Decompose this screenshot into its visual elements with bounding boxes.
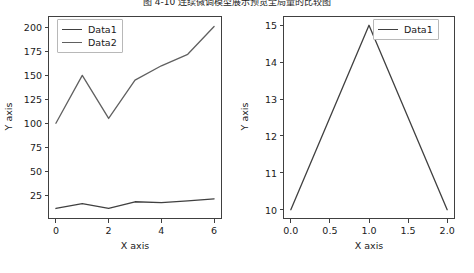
x-tick-mark <box>55 219 56 223</box>
figure-canvas: 图 4-10 连续微调模型展示预览全局量的比较图 255075100125150… <box>0 0 474 273</box>
x-tick-label: 2 <box>106 225 112 236</box>
left-chart-legend[interactable]: Data1 Data2 <box>57 19 123 53</box>
y-tick-mark <box>45 99 49 100</box>
x-tick-mark <box>161 219 162 223</box>
left-yaxis-label: Y axis <box>3 87 14 147</box>
series-line-Data1 <box>291 25 447 210</box>
x-tick-mark <box>408 219 409 223</box>
y-tick-mark <box>45 75 49 76</box>
right-chart-axes <box>283 16 455 219</box>
right-xaxis-label: X axis <box>283 240 455 251</box>
legend-label: Data1 <box>88 24 117 35</box>
y-tick-label: 14 <box>243 57 277 68</box>
x-tick-label: 2.0 <box>440 225 455 236</box>
legend-item[interactable]: Data1 <box>378 23 433 36</box>
y-tick-label: 50 <box>8 166 42 177</box>
right-chart-legend[interactable]: Data1 <box>373 19 439 40</box>
x-tick-label: 6 <box>211 225 217 236</box>
legend-item[interactable]: Data1 <box>62 23 117 36</box>
x-tick-mark <box>329 219 330 223</box>
y-tick-mark <box>45 195 49 196</box>
x-tick-mark <box>214 219 215 223</box>
y-tick-label: 150 <box>8 70 42 81</box>
y-tick-mark <box>280 135 284 136</box>
legend-label: Data2 <box>88 37 117 48</box>
series-line-Data1 <box>56 199 214 209</box>
y-tick-mark <box>280 99 284 100</box>
figure-title: 图 4-10 连续微调模型展示预览全局量的比较图 <box>0 0 474 7</box>
y-tick-label: 25 <box>8 190 42 201</box>
x-tick-mark <box>447 219 448 223</box>
y-tick-mark <box>45 171 49 172</box>
x-tick-label: 1.5 <box>401 225 416 236</box>
y-tick-mark <box>45 27 49 28</box>
y-tick-label: 15 <box>243 20 277 31</box>
x-tick-label: 0 <box>53 225 59 236</box>
legend-line-icon <box>62 29 82 30</box>
y-tick-mark <box>45 147 49 148</box>
x-tick-mark <box>290 219 291 223</box>
x-tick-label: 1.0 <box>361 225 376 236</box>
x-tick-mark <box>108 219 109 223</box>
right-yaxis-label: Y axis <box>239 87 250 147</box>
y-tick-mark <box>45 51 49 52</box>
y-tick-mark <box>280 62 284 63</box>
legend-item[interactable]: Data2 <box>62 36 117 49</box>
legend-line-icon <box>62 42 82 43</box>
y-tick-label: 200 <box>8 22 42 33</box>
legend-label: Data1 <box>404 24 433 35</box>
x-tick-label: 0.5 <box>322 225 337 236</box>
y-tick-mark <box>280 172 284 173</box>
x-tick-label: 4 <box>158 225 164 236</box>
legend-line-icon <box>378 29 398 30</box>
x-tick-label: 0.0 <box>283 225 298 236</box>
y-tick-label: 175 <box>8 46 42 57</box>
x-tick-mark <box>369 219 370 223</box>
right-plot-lines <box>283 16 455 219</box>
y-tick-mark <box>280 209 284 210</box>
y-tick-label: 10 <box>243 204 277 215</box>
y-tick-mark <box>45 123 49 124</box>
y-tick-mark <box>280 25 284 26</box>
left-xaxis-label: X axis <box>48 240 222 251</box>
y-tick-label: 11 <box>243 167 277 178</box>
